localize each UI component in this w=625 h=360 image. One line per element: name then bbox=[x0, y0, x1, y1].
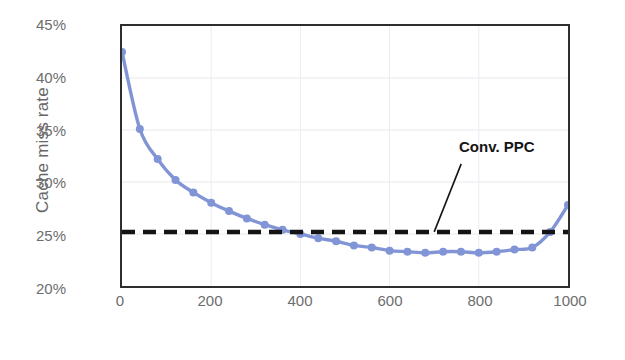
y-tick-label-5: 45% bbox=[16, 16, 66, 33]
plot-area bbox=[120, 24, 570, 288]
x-tick-label-2: 400 bbox=[270, 292, 330, 309]
annotation-conv-ppc-label: Conv. PPC bbox=[459, 138, 535, 155]
data-point-marker bbox=[403, 248, 411, 256]
data-point-marker bbox=[439, 248, 447, 256]
data-point-marker bbox=[136, 125, 144, 133]
x-tick-label-0: 0 bbox=[90, 292, 150, 309]
x-tick-label-3: 600 bbox=[360, 292, 420, 309]
data-point-marker bbox=[154, 155, 162, 163]
data-point-marker bbox=[189, 188, 197, 196]
y-axis-title: Cache miss rate bbox=[28, 0, 58, 300]
y-tick-label-0: 20% bbox=[16, 280, 66, 297]
chart-figure: Cache miss rate 20% 25% 30% 35% 40% 45% … bbox=[0, 0, 625, 360]
y-tick-label-4: 40% bbox=[16, 68, 66, 85]
data-point-marker bbox=[225, 207, 233, 215]
data-point-marker bbox=[368, 244, 376, 252]
data-point-marker bbox=[332, 237, 340, 245]
data-point-marker bbox=[528, 244, 536, 252]
x-tick-label-1: 200 bbox=[180, 292, 240, 309]
data-point-marker bbox=[314, 234, 322, 242]
y-tick-label-2: 30% bbox=[16, 174, 66, 191]
annotation-leader-line bbox=[434, 164, 461, 232]
x-tick-label-4: 800 bbox=[450, 292, 510, 309]
data-point-marker bbox=[243, 214, 251, 222]
data-point-marker bbox=[122, 48, 126, 56]
data-point-marker bbox=[421, 249, 429, 257]
data-point-marker bbox=[475, 249, 483, 257]
y-tick-label-3: 35% bbox=[16, 121, 66, 138]
data-point-marker bbox=[493, 248, 501, 256]
data-point-marker bbox=[207, 199, 215, 207]
data-point-marker bbox=[457, 248, 465, 256]
data-point-marker bbox=[510, 246, 518, 254]
leader-line bbox=[434, 164, 461, 232]
x-tick-label-5: 1000 bbox=[540, 292, 600, 309]
plot-canvas bbox=[122, 26, 568, 286]
data-point-marker bbox=[172, 176, 180, 184]
data-point-marker bbox=[386, 247, 394, 255]
data-point-marker bbox=[261, 221, 269, 229]
data-point-marker bbox=[350, 241, 358, 249]
y-tick-label-1: 25% bbox=[16, 227, 66, 244]
gridlines bbox=[122, 26, 568, 286]
